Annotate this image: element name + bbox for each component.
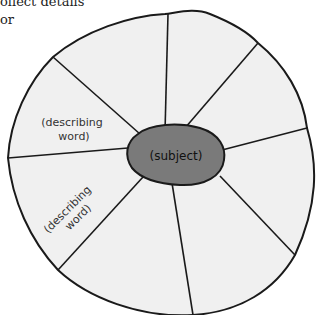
center-subject-label: (subject) [150,149,203,163]
describing-word-label-1-line-1: (describing [41,116,102,129]
describing-word-label-1-line-2: word) [58,130,89,143]
word-web-diagram: (subject) (describing word) (describing … [0,0,324,315]
